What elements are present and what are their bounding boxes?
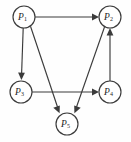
node-p5[interactable]: P5 [56, 113, 78, 135]
arrowhead-icon [74, 106, 81, 114]
arrowhead-icon [92, 14, 99, 21]
edge-p4-to-p2 [107, 28, 114, 81]
arrowhead-icon [92, 89, 99, 96]
arrowhead-icon [53, 106, 60, 114]
edge-p1-to-p5 [31, 26, 60, 113]
edge-p1-to-p3 [18, 28, 25, 80]
arrowhead-icon [18, 73, 25, 80]
edge-p3-to-p4 [32, 89, 99, 96]
edge-p1-to-p2 [35, 14, 99, 21]
node-p3[interactable]: P3 [10, 81, 32, 103]
arrowhead-icon [107, 28, 114, 35]
node-p4[interactable]: P4 [99, 81, 121, 103]
directed-graph-diagram: P1 P2 P3 P4 P5 [0, 0, 131, 142]
node-p1[interactable]: P1 [13, 6, 35, 28]
graph-canvas: P1 P2 P3 P4 P5 [0, 0, 131, 142]
edge-p2-to-p5 [74, 27, 104, 113]
node-p2[interactable]: P2 [99, 6, 121, 28]
